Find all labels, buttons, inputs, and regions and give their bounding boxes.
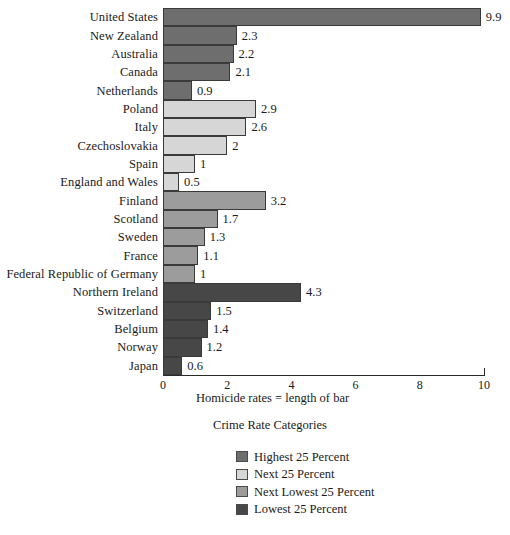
homicide-rate-bar-chart: United States9.9New Zealand2.3Australia2… <box>0 0 510 535</box>
legend-item: Highest 25 Percent <box>236 448 374 466</box>
bar-rows: United States9.9New Zealand2.3Australia2… <box>0 8 510 375</box>
legend-item: Next 25 Percent <box>236 466 374 484</box>
bar-value-label: 0.9 <box>192 84 213 97</box>
bar-category-label: Sweden <box>118 231 158 244</box>
legend-title: Crime Rate Categories <box>0 418 510 433</box>
bar <box>163 246 198 264</box>
bar <box>163 338 202 356</box>
bar-row: Scotland1.7 <box>0 210 510 228</box>
legend-label: Next Lowest 25 Percent <box>254 486 374 499</box>
bar-category-label: England and Wales <box>60 176 158 189</box>
bar-category-label: New Zealand <box>90 29 158 42</box>
bar <box>163 302 211 320</box>
bar-value-label: 1.3 <box>205 231 226 244</box>
bar-row: United States9.9 <box>0 8 510 26</box>
bar-category-label: Czechoslovakia <box>77 139 158 152</box>
bar-row: Netherlands0.9 <box>0 81 510 99</box>
bar-category-label: United States <box>90 11 158 24</box>
bar <box>163 100 256 118</box>
bar-value-label: 2.9 <box>256 103 277 116</box>
bar-category-label: Norway <box>117 341 158 354</box>
bar-category-label: Netherlands <box>97 84 159 97</box>
bar <box>163 357 182 375</box>
bar <box>163 63 230 81</box>
bar-row: Canada2.1 <box>0 63 510 81</box>
bar-value-label: 1.4 <box>208 323 229 336</box>
x-axis-line <box>163 375 485 376</box>
bar-category-label: France <box>123 249 158 262</box>
bar-row: Finland3.2 <box>0 191 510 209</box>
bar-category-label: Federal Republic of Germany <box>6 268 158 281</box>
legend-label: Next 25 Percent <box>254 468 335 481</box>
bar-value-label: 3.2 <box>266 194 287 207</box>
bar-category-label: Spain <box>129 158 158 171</box>
bar-row: Czechoslovakia2 <box>0 136 510 154</box>
bar <box>163 228 205 246</box>
bar <box>163 265 195 283</box>
bar <box>163 155 195 173</box>
bar-category-label: Switzerland <box>97 304 158 317</box>
bar-category-label: Italy <box>135 121 158 134</box>
bar-row: Italy2.6 <box>0 118 510 136</box>
legend-swatch <box>236 451 248 462</box>
bar-category-label: Japan <box>129 359 158 372</box>
bar-row: Norway1.2 <box>0 338 510 356</box>
bar-row: New Zealand2.3 <box>0 26 510 44</box>
bar <box>163 210 218 228</box>
bar-row: Switzerland1.5 <box>0 302 510 320</box>
bar <box>163 136 227 154</box>
bar-value-label: 1.7 <box>218 213 239 226</box>
bar <box>163 81 192 99</box>
legend-swatch <box>236 486 248 497</box>
bar-value-label: 1.1 <box>198 249 219 262</box>
plot-area: United States9.9New Zealand2.3Australia2… <box>0 8 510 378</box>
bar <box>163 118 246 136</box>
bar-value-label: 2.1 <box>230 66 251 79</box>
legend-label: Highest 25 Percent <box>254 451 349 464</box>
bar-category-label: Belgium <box>114 323 158 336</box>
legend-item: Next Lowest 25 Percent <box>236 483 374 501</box>
bar-value-label: 9.9 <box>481 11 502 24</box>
bar-value-label: 0.5 <box>179 176 200 189</box>
bar <box>163 283 301 301</box>
bar-value-label: 0.6 <box>182 359 203 372</box>
bar-row: Sweden1.3 <box>0 228 510 246</box>
legend-swatch <box>236 504 248 515</box>
bar-row: Northern Ireland4.3 <box>0 283 510 301</box>
bar-value-label: 1 <box>195 268 206 281</box>
bar-value-label: 1.2 <box>202 341 223 354</box>
x-axis-right-cap <box>484 368 485 376</box>
bar-row: Belgium1.4 <box>0 320 510 338</box>
legend-swatch <box>236 469 248 480</box>
bar-value-label: 2.2 <box>234 48 255 61</box>
bar-value-label: 4.3 <box>301 286 322 299</box>
bar-value-label: 2.6 <box>246 121 267 134</box>
bar-category-label: Poland <box>123 103 158 116</box>
bar-row: Federal Republic of Germany1 <box>0 265 510 283</box>
bar-row: England and Wales0.5 <box>0 173 510 191</box>
bar-value-label: 1.5 <box>211 304 232 317</box>
bar-row: Poland2.9 <box>0 100 510 118</box>
legend-label: Lowest 25 Percent <box>254 503 347 516</box>
bar-category-label: Northern Ireland <box>73 286 158 299</box>
bar-value-label: 1 <box>195 158 206 171</box>
bar-category-label: Finland <box>119 194 158 207</box>
bar-value-label: 2 <box>227 139 238 152</box>
bar-value-label: 2.3 <box>237 29 258 42</box>
bar-row: Spain1 <box>0 155 510 173</box>
bar-row: France1.1 <box>0 246 510 264</box>
legend-item: Lowest 25 Percent <box>236 501 374 519</box>
bar <box>163 45 234 63</box>
bar-row: Japan0.6 <box>0 357 510 375</box>
legend: Highest 25 PercentNext 25 PercentNext Lo… <box>236 448 374 518</box>
bar-category-label: Canada <box>120 66 158 79</box>
x-axis-title: Homicide rates = length of bar <box>0 391 510 406</box>
bar <box>163 191 266 209</box>
bar <box>163 173 179 191</box>
bar-category-label: Scotland <box>113 213 158 226</box>
bar <box>163 26 237 44</box>
bar-row: Australia2.2 <box>0 45 510 63</box>
bar <box>163 320 208 338</box>
bar-category-label: Australia <box>111 48 158 61</box>
bar <box>163 8 481 26</box>
